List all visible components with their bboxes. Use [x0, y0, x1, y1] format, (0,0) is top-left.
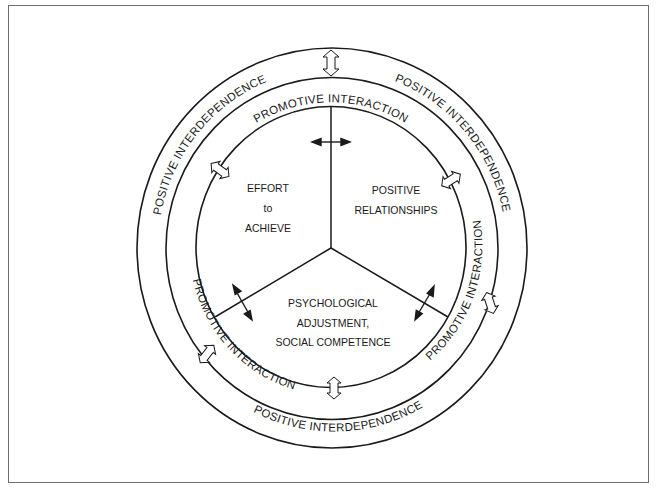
- sector-label-line: to: [264, 202, 273, 214]
- hollow-arrow-upper-left-icon: [207, 158, 233, 182]
- cooperation-outcomes-diagram: POSITIVE INTERDEPENDENCE POSITIVE INTERD…: [0, 0, 659, 494]
- sector-label-line: ADJUSTMENT,: [297, 317, 369, 329]
- sector-psychological-adjustment: PSYCHOLOGICAL ADJUSTMENT, SOCIAL COMPETE…: [275, 297, 390, 348]
- hollow-arrow-lower-right-icon: [480, 290, 500, 315]
- sector-label-line: SOCIAL COMPETENCE: [275, 336, 390, 348]
- double-arrow-left-icon: [233, 285, 252, 320]
- middle-ring-label-left: PROMOTIVE INTERACTION: [191, 277, 298, 391]
- outer-ring-label-bottom: POSITIVE INTERDEPENDENCE: [252, 398, 424, 433]
- sector-positive-relationships: POSITIVE RELATIONSHIPS: [354, 184, 437, 216]
- hollow-arrow-lower-left-icon: [195, 341, 220, 367]
- sector-label-line: RELATIONSHIPS: [354, 204, 437, 216]
- hollow-arrow-upper-right-icon: [438, 168, 464, 192]
- outer-ring-label-upper-left: POSITIVE INTERDEPENDENCE: [151, 73, 268, 216]
- sector-label-line: EFFORT: [247, 182, 289, 194]
- sector-label-line: POSITIVE: [372, 184, 420, 196]
- hollow-arrow-top-icon: [323, 50, 339, 76]
- double-arrow-right-icon: [415, 286, 434, 320]
- sector-label-line: PSYCHOLOGICAL: [288, 297, 378, 309]
- sector-effort-to-achieve: EFFORT to ACHIEVE: [245, 182, 291, 234]
- sector-label-line: ACHIEVE: [245, 222, 291, 234]
